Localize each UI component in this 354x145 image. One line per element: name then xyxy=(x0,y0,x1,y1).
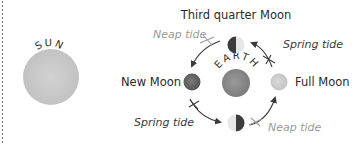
tides-diagram: SUN EARTH Third quarter Moon New Moon Fu… xyxy=(0,0,354,145)
arrow-bottom-left xyxy=(190,99,220,122)
earth: EARTH xyxy=(212,50,262,97)
spring-mark-top-right xyxy=(263,55,275,64)
new-moon xyxy=(184,74,201,91)
new-moon-label: New Moon xyxy=(121,75,181,89)
tide-label-bottom-left: Spring tide xyxy=(134,116,194,129)
tide-label-top-left: Neap tide xyxy=(153,28,207,41)
full-moon-label: Full Moon xyxy=(295,75,350,89)
earth-circle xyxy=(222,69,250,97)
sun: SUN xyxy=(23,37,79,105)
tide-label-bottom-right: Neap tide xyxy=(268,121,322,134)
full-moon xyxy=(271,74,288,91)
sun-circle xyxy=(23,49,79,105)
third-quarter-moon-label: Third quarter Moon xyxy=(180,8,292,22)
first-quarter-moon xyxy=(228,115,245,132)
spring-mark-bottom-left xyxy=(189,100,199,109)
third-quarter-moon xyxy=(228,37,245,54)
tide-label-top-right: Spring tide xyxy=(283,38,343,51)
